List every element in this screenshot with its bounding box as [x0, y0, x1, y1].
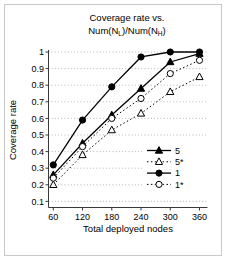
x-tick-label: 120 — [75, 212, 90, 222]
open-circle-marker — [109, 115, 115, 121]
x-tick-label: 240 — [134, 212, 149, 222]
y-tick-label: 1 — [39, 47, 44, 57]
coverage-rate-chart: Coverage rate vs. Num(NL)/Num(NH) 10.90.… — [0, 0, 226, 260]
open-triangle-marker — [50, 181, 57, 188]
open-triangle-marker — [108, 126, 115, 133]
legend-label: 5* — [175, 157, 184, 167]
y-tick-label: 0.1 — [31, 197, 44, 207]
y-axis-title: Coverage rate — [7, 100, 18, 160]
x-tick-label: 360 — [192, 212, 207, 222]
filled-circle-marker — [79, 117, 85, 123]
open-triangle-marker — [196, 73, 203, 80]
legend-label: 5 — [175, 146, 180, 156]
y-tick-label: 0.9 — [31, 64, 44, 74]
filled-circle-marker — [50, 162, 56, 168]
y-tick-label: 0.7 — [31, 97, 44, 107]
filled-circle-marker — [138, 54, 144, 60]
open-circle-marker — [156, 181, 162, 187]
open-circle-marker — [138, 95, 144, 101]
open-triangle-marker — [167, 88, 174, 95]
open-circle-marker — [167, 70, 173, 76]
x-tick-label: 60 — [48, 212, 58, 222]
chart-title-line2: Num(NL)/Num(NH) — [88, 25, 165, 37]
x-tick-label: 180 — [104, 212, 119, 222]
legend-label: 1* — [175, 180, 184, 190]
x-axis-title: Total deployed nodes — [83, 223, 173, 234]
y-tick-label: 0.8 — [31, 80, 44, 90]
open-circle-marker — [79, 144, 85, 150]
chart-figure: Coverage rate vs. Num(NL)/Num(NH) 10.90.… — [0, 0, 226, 260]
filled-circle-marker — [109, 84, 115, 90]
x-tick-label: 300 — [163, 212, 178, 222]
y-tick-label: 0.5 — [31, 130, 44, 140]
open-triangle-marker — [79, 151, 86, 158]
filled-circle-marker — [156, 170, 162, 176]
x-axis-tick-labels: 60120180240300360 — [48, 212, 207, 222]
y-axis-tick-labels: 10.90.80.70.60.50.40.30.20.1 — [31, 47, 44, 206]
chart-title-line1: Coverage rate vs. — [90, 12, 165, 23]
y-tick-label: 0.6 — [31, 114, 44, 124]
legend-label: 1 — [175, 168, 180, 178]
y-tick-label: 0.2 — [31, 180, 44, 190]
y-tick-label: 0.4 — [31, 147, 44, 157]
open-triangle-marker — [137, 110, 144, 117]
legend: 55*11* — [143, 144, 207, 192]
filled-circle-marker — [167, 49, 173, 55]
open-circle-marker — [50, 175, 56, 181]
y-tick-label: 0.3 — [31, 163, 44, 173]
open-circle-marker — [196, 57, 202, 63]
filled-circle-marker — [196, 49, 202, 55]
